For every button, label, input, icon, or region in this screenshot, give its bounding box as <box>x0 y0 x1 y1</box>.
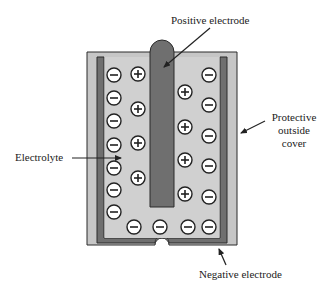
positive-ion-icon <box>131 102 145 116</box>
negative-ion-icon <box>202 159 216 173</box>
positive-ion-icon <box>178 153 192 167</box>
positive-ion-icon <box>131 136 145 150</box>
electrolyte-label: Electrolyte <box>15 151 63 163</box>
positive-ion-icon <box>178 120 192 134</box>
negative-ion-icon <box>107 183 121 197</box>
negative-electrode-arrow <box>219 249 226 265</box>
positive-electrode-label: Positive electrode <box>171 14 250 26</box>
negative-ion-icon <box>153 220 167 234</box>
negative-ion-icon <box>127 220 141 234</box>
positive-ion-icon <box>131 67 145 81</box>
negative-ion-icon <box>107 205 121 219</box>
negative-ion-icon <box>202 129 216 143</box>
negative-ion-icon <box>202 68 216 82</box>
negative-ion-icon <box>181 220 195 234</box>
negative-ion-icon <box>202 98 216 112</box>
protective-cover-label-line2: outside <box>266 124 322 137</box>
positive-electrode <box>150 40 174 207</box>
negative-ion-icon <box>107 91 121 105</box>
negative-ion-icon <box>107 138 121 152</box>
protective-cover-label-line1: Protective <box>266 111 322 124</box>
negative-ion-icon <box>202 190 216 204</box>
positive-ion-icon <box>178 187 192 201</box>
negative-ion-icon <box>107 68 121 82</box>
protective-cover-arrow <box>241 121 265 133</box>
positive-ion-icon <box>178 85 192 99</box>
protective-cover-label-line3: cover <box>266 137 322 150</box>
protective-cover-label: Protective outside cover <box>266 111 322 150</box>
negative-ion-icon <box>202 220 216 234</box>
negative-ion-icon <box>107 114 121 128</box>
negative-ion-icon <box>107 161 121 175</box>
negative-electrode-label: Negative electrode <box>199 268 282 280</box>
positive-ion-icon <box>131 171 145 185</box>
